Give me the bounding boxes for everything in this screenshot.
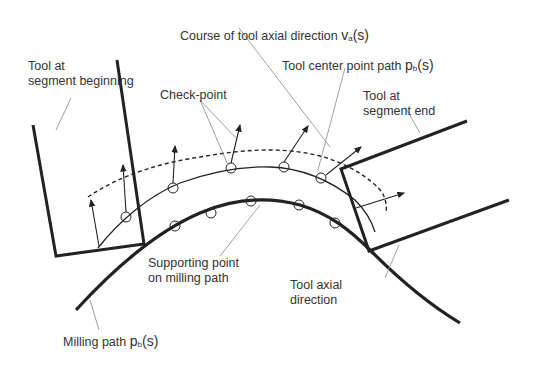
diagram-drawing bbox=[0, 0, 535, 366]
label-tool-axial-direction: Tool axial direction bbox=[290, 278, 342, 308]
tool-segment-beginning bbox=[33, 60, 144, 256]
milling-path-curve bbox=[76, 200, 460, 323]
label-check-point: Check-point bbox=[160, 88, 227, 103]
tool-segment-end bbox=[341, 121, 509, 251]
label-tool-end: Tool at segment end bbox=[363, 89, 435, 119]
diagram-canvas: Course of tool axial direction va(s) Too… bbox=[0, 0, 535, 366]
axial-arrows bbox=[91, 125, 404, 246]
label-supporting-point: Supporting point on milling path bbox=[148, 256, 239, 286]
label-tcp-path: Tool center point path pb(s) bbox=[282, 58, 434, 76]
label-tool-begin: Tool at segment beginning bbox=[28, 59, 134, 89]
label-milling-path: Milling path pb(s) bbox=[63, 334, 158, 352]
label-course-axial: Course of tool axial direction va(s) bbox=[180, 28, 369, 46]
